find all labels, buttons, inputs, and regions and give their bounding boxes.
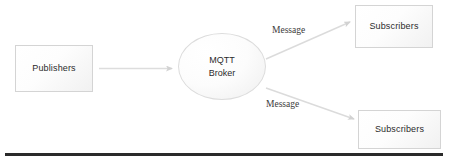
- node-subscribers-bottom-label: Subscribers: [375, 125, 424, 135]
- diagram-canvas: Publishers MQTT Broker Subscribers Subsc…: [0, 0, 450, 165]
- bottom-divider: [5, 153, 443, 156]
- node-subscribers-top-label: Subscribers: [369, 22, 418, 32]
- edge-label-message-bottom: Message: [266, 99, 299, 109]
- node-broker-label-line2: Broker: [209, 67, 236, 79]
- node-broker-label-line1: MQTT: [209, 54, 235, 66]
- node-subscribers-bottom: Subscribers: [358, 110, 441, 149]
- node-publishers-label: Publishers: [32, 64, 76, 74]
- node-subscribers-top: Subscribers: [355, 5, 433, 48]
- node-mqtt-broker: MQTT Broker: [178, 33, 266, 100]
- node-publishers: Publishers: [15, 45, 93, 92]
- edge-label-message-top: Message: [272, 25, 305, 35]
